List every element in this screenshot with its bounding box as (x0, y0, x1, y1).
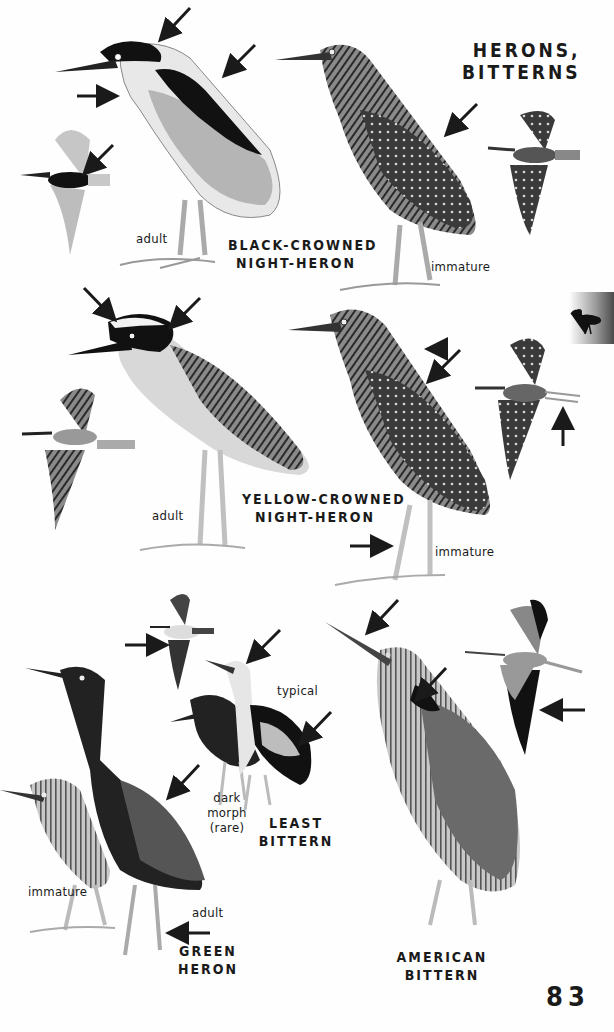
arrow-icon (448, 104, 477, 133)
yellow-crowned-immature-flight-illustration (475, 339, 580, 480)
arrow-icon (302, 712, 331, 742)
species-name-line1: BLACK-CROWNED (228, 236, 364, 254)
arrow-icon (172, 298, 200, 326)
label-rare: (rare) (204, 820, 250, 835)
species-name-line2: NIGHT-HERON (242, 508, 388, 526)
field-guide-page: HERONS, BITTERNS adult BLACK-CROWNED NIG… (0, 0, 614, 1032)
heron-silhouette-icon (569, 292, 614, 344)
species-name-line2: HERON (174, 960, 242, 978)
american-bittern-illustration (325, 622, 520, 925)
arrow-icon (86, 145, 113, 172)
label-immature: immature (431, 259, 490, 274)
species-name-line1: AMERICAN (394, 948, 490, 966)
species-name-line1: YELLOW-CROWNED (242, 490, 388, 508)
label-adult: adult (192, 905, 223, 920)
species-name-green-heron: GREEN HERON (174, 942, 242, 978)
species-name-least-bittern: LEAST BITTERN (258, 814, 334, 850)
arrow-icon (369, 600, 398, 631)
label-typical: typical (277, 683, 318, 698)
black-crowned-flight-illustration (20, 130, 110, 255)
label-immature: immature (28, 884, 87, 899)
species-name-line1: GREEN (174, 942, 242, 960)
arrow-icon (250, 630, 280, 660)
arrow-icon (162, 8, 190, 38)
label-adult: adult (152, 508, 183, 523)
label-dark-morph-rare: dark morph (rare) (204, 790, 250, 835)
black-crowned-immature-flight-illustration (488, 111, 580, 235)
least-bittern-flight-illustration (150, 594, 214, 690)
arrow-icon (430, 350, 460, 380)
section-title: HERONS, BITTERNS (462, 39, 581, 83)
section-title-line1: HERONS, (462, 39, 581, 61)
species-name-line2: BITTERN (258, 832, 334, 850)
species-name-american-bittern: AMERICAN BITTERN (394, 948, 490, 984)
label-adult: adult (136, 231, 167, 246)
arrow-icon (84, 288, 113, 318)
label-immature: immature (435, 544, 494, 559)
arrow-icon (226, 45, 255, 74)
yellow-crowned-flight-illustration (22, 389, 135, 530)
species-name-line1: LEAST (258, 814, 334, 832)
american-bittern-flight-illustration (465, 600, 582, 755)
thumb-index-tab[interactable] (569, 292, 614, 344)
species-name-line2: NIGHT-HERON (228, 254, 364, 272)
label-morph: morph (204, 805, 250, 820)
page-number: 83 (546, 981, 590, 1012)
black-crowned-adult-illustration (55, 41, 280, 268)
arrow-icon (170, 765, 199, 796)
species-name-yellow-crowned-night-heron: YELLOW-CROWNED NIGHT-HERON (242, 490, 388, 526)
label-dark: dark (204, 790, 250, 805)
section-title-line2: BITTERNS (462, 61, 581, 83)
species-name-line2: BITTERN (394, 966, 490, 984)
species-name-black-crowned-night-heron: BLACK-CROWNED NIGHT-HERON (228, 236, 364, 272)
